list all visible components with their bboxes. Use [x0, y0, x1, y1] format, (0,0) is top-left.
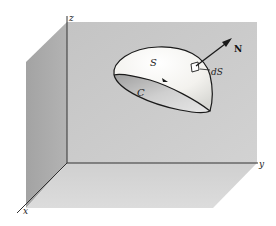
surface-integral-diagram: z y x N dS S C — [0, 0, 276, 226]
element-label-dS: dS — [211, 67, 223, 77]
surface-element-dS — [191, 62, 199, 72]
surface-label-S: S — [150, 57, 157, 68]
z-axis-label: z — [68, 13, 74, 23]
y-axis-label: y — [258, 159, 265, 169]
x-axis-label: x — [23, 206, 28, 216]
curve-label-C: C — [137, 87, 145, 98]
normal-label-N: N — [234, 44, 242, 54]
